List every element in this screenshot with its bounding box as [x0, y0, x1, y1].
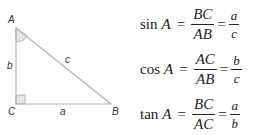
angle-variable: A — [164, 61, 173, 78]
denominator: c — [229, 25, 239, 40]
ratio-fraction: BC AC — [192, 97, 215, 132]
denominator: AB — [194, 70, 216, 87]
equals-sign: = — [178, 106, 186, 123]
denominator: AB — [192, 25, 214, 42]
equals-sign: = — [220, 61, 228, 78]
numerator: b — [231, 54, 242, 70]
side-fraction: a b — [230, 99, 241, 130]
side-label-b: b — [7, 61, 13, 71]
function-name: tan — [140, 106, 158, 123]
numerator: a — [230, 99, 241, 115]
function-name: sin — [140, 16, 158, 33]
ratio-fraction: BC AB — [191, 7, 214, 42]
right-angle-marker — [16, 95, 25, 104]
side-fraction: b c — [231, 54, 242, 85]
side-label-a: a — [60, 107, 66, 117]
angle-variable: A — [162, 16, 171, 33]
numerator: a — [229, 9, 240, 25]
angle-variable: A — [162, 106, 171, 123]
right-triangle-diagram: A b c C a B — [0, 0, 130, 135]
vertex-label-b: B — [112, 107, 119, 117]
cosine-formula: cos A = AC AB = b c — [140, 52, 242, 87]
equals-sign: = — [218, 106, 226, 123]
numerator: BC — [191, 7, 214, 25]
denominator: AC — [192, 115, 215, 132]
vertex-label-c: C — [8, 107, 15, 117]
ratio-fraction: AC AB — [194, 52, 217, 87]
side-label-c: c — [65, 55, 70, 65]
side-fraction: a c — [229, 9, 240, 40]
sine-formula: sin A = BC AB = a c — [140, 7, 239, 42]
denominator: b — [230, 115, 241, 130]
triangle-outline — [16, 28, 111, 104]
function-name: cos — [140, 61, 160, 78]
vertex-label-a: A — [8, 15, 15, 25]
denominator: c — [232, 70, 242, 85]
equals-sign: = — [177, 16, 185, 33]
equals-sign: = — [179, 61, 187, 78]
numerator: AC — [194, 52, 217, 70]
tangent-formula: tan A = BC AC = a b — [140, 97, 240, 132]
equals-sign: = — [217, 16, 225, 33]
numerator: BC — [192, 97, 215, 115]
